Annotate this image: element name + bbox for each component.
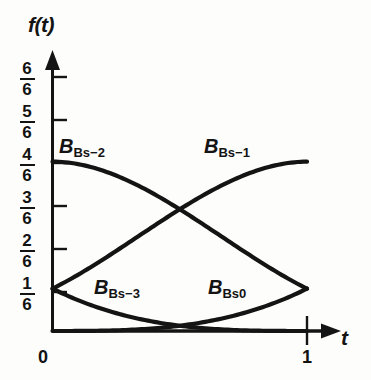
y-tick-label-2-6: 2 6	[14, 232, 40, 270]
x-tick-label-0: 0	[33, 347, 53, 368]
bspline-basis-figure: f(t) t 6 6 5 6 4 6 3 6 2 6 1 6 0 1 BBs−2…	[0, 0, 371, 380]
curve-label-subscript: Bs−3	[108, 286, 139, 301]
curve-label-base: B	[204, 135, 218, 157]
y-tick-numerator: 4	[14, 146, 40, 164]
curve-label-subscript: Bs−1	[218, 145, 249, 160]
y-tick-numerator: 5	[14, 103, 40, 121]
y-tick-denominator: 6	[14, 209, 40, 227]
y-tick-label-1-6: 1 6	[14, 275, 40, 313]
curve-label-base: B	[208, 276, 222, 298]
y-axis-label: f(t)	[28, 14, 54, 35]
y-tick-denominator: 6	[14, 295, 40, 313]
y-tick-numerator: 2	[14, 232, 40, 250]
y-tick-numerator: 6	[14, 60, 40, 78]
y-tick-marks	[53, 77, 67, 292]
y-tick-label-6-6: 6 6	[14, 60, 40, 98]
curve-label-subscript: Bs−2	[73, 145, 104, 160]
y-tick-denominator: 6	[14, 80, 40, 98]
curve-label-bs-1: BBs−1	[204, 136, 250, 159]
x-tick-label-1: 1	[297, 347, 317, 368]
y-tick-denominator: 6	[14, 123, 40, 141]
curve-label-base: B	[94, 276, 108, 298]
curve-label-base: B	[59, 135, 73, 157]
y-tick-label-5-6: 5 6	[14, 103, 40, 141]
curve-label-subscript: Bs0	[222, 286, 246, 301]
y-tick-numerator: 3	[14, 189, 40, 207]
y-tick-denominator: 6	[14, 166, 40, 184]
curve-label-bs-2: BBs−2	[59, 136, 105, 159]
y-tick-numerator: 1	[14, 275, 40, 293]
curve-label-bs-3: BBs−3	[94, 277, 140, 300]
curve-label-bs0: BBs0	[208, 277, 246, 300]
y-tick-denominator: 6	[14, 252, 40, 270]
plot-canvas	[0, 0, 371, 380]
y-tick-label-3-6: 3 6	[14, 189, 40, 227]
y-tick-label-4-6: 4 6	[14, 146, 40, 184]
curve-group	[53, 162, 308, 331]
curve-bs0	[53, 289, 308, 331]
x-axis-label: t	[341, 327, 348, 348]
